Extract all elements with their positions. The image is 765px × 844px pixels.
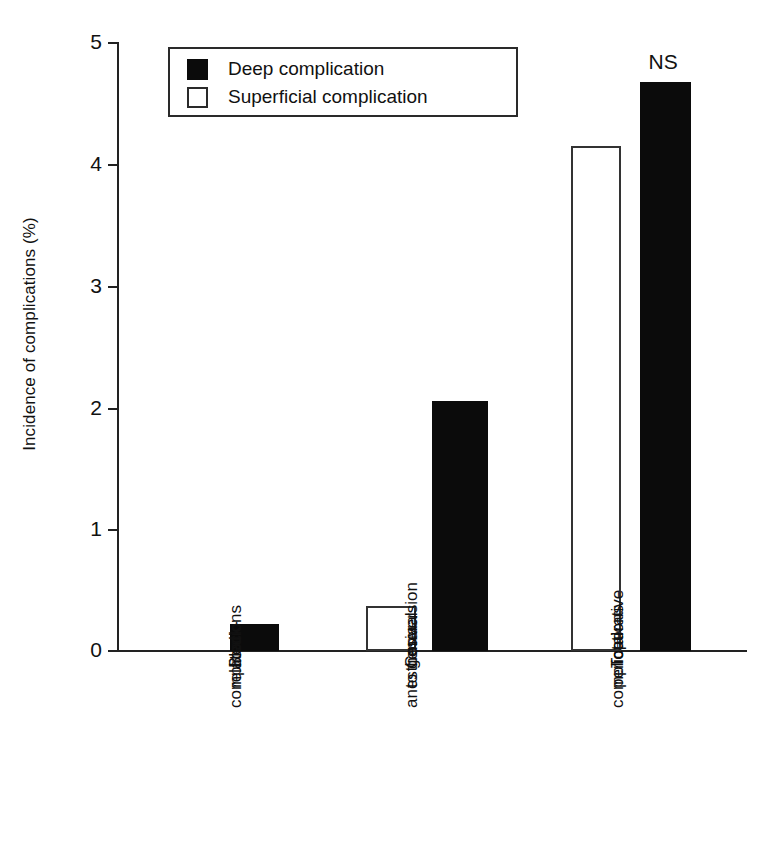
hollow-square-icon [187, 87, 208, 108]
cat1-line-0: Block- [226, 621, 246, 668]
y-tick-5 [108, 42, 117, 44]
y-axis-title: Incidence of complications (%) [20, 194, 40, 474]
cat3-line-0: Total [608, 632, 628, 668]
y-tick-1 [108, 529, 117, 531]
legend-label-superficial: Superficial complication [228, 86, 428, 108]
chart-legend: Deep complication Superficial complicati… [168, 47, 518, 117]
y-tick-label-1: 1 [68, 518, 102, 539]
legend-item-superficial: Superficial complication [187, 84, 428, 110]
y-tick-0 [108, 650, 117, 652]
y-tick-label-5: 5 [68, 31, 102, 52]
legend-item-deep: Deep complication [187, 56, 384, 82]
y-tick-2 [108, 408, 117, 410]
legend-label-deep: Deep complication [228, 58, 384, 80]
y-tick-3 [108, 286, 117, 288]
y-tick-label-0: 0 [68, 639, 102, 660]
x-category-label-conversion: anesthesia to general Conversion [402, 668, 488, 728]
ns-annotation: NS [649, 50, 678, 74]
y-tick-4 [108, 164, 117, 166]
x-category-label-total: complications perioperative Total [608, 668, 711, 728]
bar-total-superficial [571, 146, 621, 651]
bar-conversion-deep [432, 401, 488, 651]
bar-chart-figure: Incidence of complications (%) 5 4 3 2 1… [0, 0, 765, 844]
cat2-line-0: Conversion [402, 582, 422, 668]
y-tick-label-3: 3 [68, 275, 102, 296]
filled-square-icon [187, 59, 208, 80]
y-tick-label-2: 2 [68, 397, 102, 418]
x-category-label-block-related: complications related Block- [226, 668, 329, 728]
y-tick-label-4: 4 [68, 153, 102, 174]
bar-total-deep [640, 82, 691, 651]
y-axis-line [117, 42, 119, 652]
